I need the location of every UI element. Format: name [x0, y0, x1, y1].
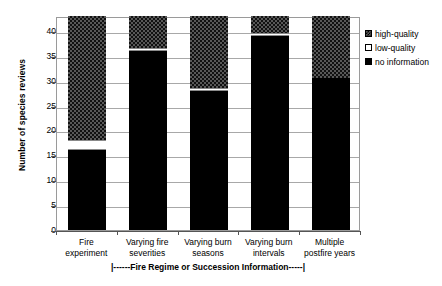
stacked-bar-chart: Number of species reviews 05101520253035… — [0, 0, 442, 286]
x-axis-tick-mark — [178, 231, 179, 235]
y-axis-tick-label: 15 — [16, 151, 56, 160]
legend-item[interactable]: high-quality — [365, 28, 442, 39]
bar-segment-high-quality — [251, 16, 289, 33]
legend-label: high-quality — [375, 29, 418, 39]
legend-item[interactable]: low-quality — [365, 42, 442, 53]
x-axis-tick-mark — [360, 231, 361, 235]
bar-segment-no-information — [68, 150, 106, 230]
bar-segment-low-quality — [251, 33, 289, 35]
bar-segment-no-information — [129, 51, 167, 230]
bar-segment-low-quality — [68, 140, 106, 150]
plot-area — [56, 17, 360, 231]
y-axis-tick-label: 0 — [16, 226, 56, 235]
legend-item[interactable]: no information — [365, 56, 442, 67]
legend-label: no information — [375, 57, 429, 67]
x-axis-tick-mark — [56, 231, 57, 235]
bar-segment-no-information — [190, 91, 228, 230]
y-axis-tick-label: 35 — [16, 52, 56, 61]
x-axis-tick-mark — [238, 231, 239, 235]
x-axis-line — [56, 231, 360, 232]
bar-stack — [68, 16, 106, 230]
x-axis-category-label: Multiplepostfire years — [294, 237, 366, 259]
y-axis-tick-label: 10 — [16, 176, 56, 185]
x-axis-category-label-line: postfire years — [294, 248, 366, 259]
x-axis-tick-mark — [299, 231, 300, 235]
bar-segment-high-quality — [190, 16, 228, 88]
legend-swatch-no-information-icon — [365, 58, 372, 65]
y-axis-tick-label: 25 — [16, 102, 56, 111]
x-axis-bracket-label: |------Fire Regime or Succession Informa… — [56, 262, 360, 272]
chart-legend: high-qualitylow-qualityno information — [365, 28, 442, 70]
y-axis-tick-label: 20 — [16, 126, 56, 135]
bar-segment-no-information — [251, 36, 289, 230]
y-axis-tick-label: 30 — [16, 77, 56, 86]
bar-stack — [129, 16, 167, 230]
bar-segment-high-quality — [129, 16, 167, 48]
bar-segment-low-quality — [190, 88, 228, 90]
bar-segment-high-quality — [312, 16, 350, 78]
bar-stack — [251, 16, 289, 230]
y-axis-tick-label: 5 — [16, 201, 56, 210]
bar-segment-high-quality — [68, 16, 106, 140]
y-axis-tick-label: 40 — [16, 27, 56, 36]
x-axis-category-label-line: Multiple — [294, 237, 366, 248]
bar-stack — [190, 16, 228, 230]
bar-segment-no-information — [312, 78, 350, 230]
legend-swatch-high-quality-icon — [365, 30, 372, 37]
legend-swatch-low-quality-icon — [365, 44, 372, 51]
legend-label: low-quality — [375, 43, 415, 53]
x-axis-tick-mark — [117, 231, 118, 235]
bar-segment-low-quality — [129, 48, 167, 50]
bar-stack — [312, 16, 350, 230]
